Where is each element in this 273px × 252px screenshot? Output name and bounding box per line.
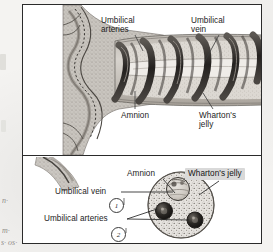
label-amnion-top: Amnion bbox=[121, 111, 149, 120]
scan-edge-artifact bbox=[1, 120, 6, 132]
label-umbilical-vein-top: Umbilical vein bbox=[191, 16, 225, 35]
annotation-1: 1 bbox=[109, 198, 124, 213]
figure-root: n· m· s· os· bbox=[0, 0, 273, 252]
label-umbilical-vein-bottom: Umbilical vein bbox=[55, 187, 106, 196]
umbilical-artery-right bbox=[187, 212, 203, 228]
label-whartons-jelly-top: Wharton's jelly bbox=[199, 111, 236, 130]
figure-plate-inner: Umbilical arteries Umbilical vein Amnion… bbox=[23, 5, 261, 243]
margin-note-3: s· os· bbox=[1, 238, 17, 247]
label-amnion-bottom: Amnion bbox=[127, 169, 155, 178]
cord-cross-section bbox=[148, 172, 214, 238]
margin-note-1: n· bbox=[2, 196, 8, 205]
label-umbilical-arteries-top: Umbilical arteries bbox=[101, 16, 135, 35]
margin-note-2: m· bbox=[2, 226, 10, 235]
annotation-2: 2 bbox=[111, 227, 126, 242]
label-umbilical-arteries-bottom: Umbilical arteries bbox=[44, 214, 108, 223]
label-whartons-jelly-bottom: Wharton's jelly bbox=[185, 168, 245, 180]
handwritten-pointer-strokes bbox=[124, 198, 126, 233]
figure-plate: Umbilical arteries Umbilical vein Amnion… bbox=[22, 4, 262, 244]
umbilical-artery-left bbox=[156, 203, 173, 220]
scan-edge-artifact bbox=[0, 54, 6, 70]
umbilical-vein-lumen bbox=[167, 178, 190, 201]
tissue-fragment bbox=[35, 157, 79, 191]
longitudinal-panel-illustration bbox=[23, 5, 261, 155]
